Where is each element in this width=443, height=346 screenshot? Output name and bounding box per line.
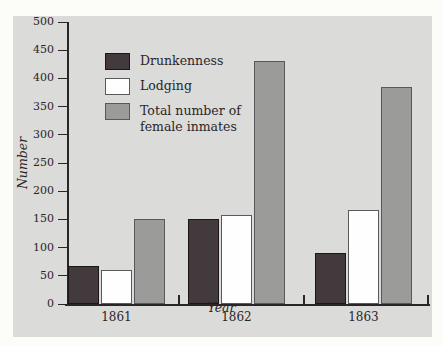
bar-lodging-1862 <box>221 215 252 304</box>
y-tick-label: 400 <box>14 71 54 85</box>
plot-area: 0501001502002503003504004505001861186218… <box>68 22 428 304</box>
y-tick <box>58 106 67 107</box>
bar-total-number-of-female-inmates-1861 <box>134 219 165 304</box>
bar-drunkenness-1862 <box>188 219 219 304</box>
y-tick <box>58 275 67 276</box>
y-tick-label: 350 <box>14 100 54 114</box>
bar-lodging-1861 <box>101 270 132 304</box>
y-tick-label: 50 <box>14 269 54 283</box>
x-axis-title: Year <box>0 300 443 315</box>
y-axis-line <box>67 22 69 305</box>
y-tick <box>58 247 67 248</box>
y-tick-label: 100 <box>14 241 54 255</box>
bar-drunkenness-1863 <box>315 253 346 304</box>
y-tick <box>58 22 67 23</box>
y-axis-title: Number <box>15 137 30 189</box>
y-tick <box>58 134 67 135</box>
bar-total-number-of-female-inmates-1863 <box>381 87 412 304</box>
y-tick <box>58 219 67 220</box>
bar-drunkenness-1861 <box>68 266 99 304</box>
figure: DrunkennessLodgingTotal number of female… <box>0 0 443 346</box>
y-tick <box>58 78 67 79</box>
bar-lodging-1863 <box>348 210 379 304</box>
y-tick <box>58 50 67 51</box>
y-tick <box>58 191 67 192</box>
y-tick-label: 450 <box>14 43 54 57</box>
bar-total-number-of-female-inmates-1862 <box>254 61 285 304</box>
y-tick-label: 500 <box>14 15 54 29</box>
y-tick-label: 150 <box>14 212 54 226</box>
y-tick <box>58 163 67 164</box>
